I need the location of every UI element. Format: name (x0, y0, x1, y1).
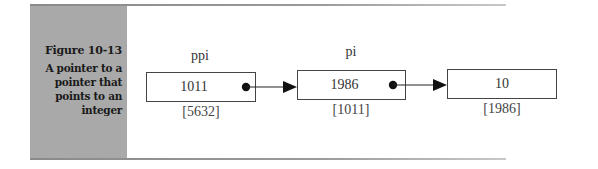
pointer-arrow-pi-to-integer (389, 79, 447, 91)
arrowhead-icon (283, 81, 297, 93)
pointer-arrow-ppi-to-pi (242, 81, 297, 93)
arrowhead-icon (433, 79, 447, 91)
pointer-arrows (0, 0, 598, 169)
